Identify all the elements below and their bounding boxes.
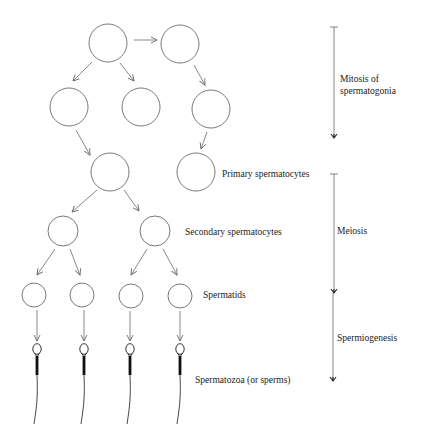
primary-spermatocyte-cell (177, 153, 215, 191)
arrow-icon (120, 63, 134, 81)
spermatid-cell (168, 284, 192, 308)
arrow-icon (73, 62, 92, 81)
spermiogenesis-phase-label: Spermiogenesis (337, 332, 397, 344)
spermatid-cell (22, 283, 46, 307)
spermatozoa-label: Spermatozoa (or sperms) (195, 374, 291, 386)
phase-timeline (330, 27, 338, 381)
sperm-icon (126, 344, 134, 424)
arrow-icon (163, 249, 177, 275)
secondary-spermatocyte-cell (140, 216, 170, 246)
arrow-icon (124, 190, 139, 211)
arrow-icon (194, 65, 205, 85)
secondary-spermatocytes-label: Secondary spermatocytes (185, 226, 282, 238)
lineage-arrows (37, 40, 207, 341)
spermatogonium-cell (50, 88, 88, 126)
spermatids-label: Spermatids (203, 289, 246, 301)
cell-lineage (22, 24, 230, 308)
spermatogenesis-diagram (0, 0, 425, 429)
arrow-icon (37, 249, 55, 275)
sperm-icon (176, 344, 184, 424)
arrow-icon (201, 132, 207, 149)
spermatid-cell (70, 283, 94, 307)
spermatogonium-cell (161, 25, 199, 63)
mitosis-phase-label-line2: spermatogonia (340, 85, 396, 97)
spermatogonium-cell (89, 24, 127, 62)
spermatid-cell (119, 284, 143, 308)
primary-spermatocyte-cell (91, 153, 129, 191)
sperm-icon (33, 344, 41, 424)
spermatogonium-cell (192, 90, 230, 128)
primary-spermatocytes-label: Primary spermatocytes (222, 168, 309, 180)
arrow-icon (70, 249, 80, 275)
spermatogonium-cell (122, 88, 160, 126)
arrow-icon (72, 190, 97, 212)
sperm-icon (80, 344, 88, 424)
arrow-icon (76, 130, 90, 155)
meiosis-phase-label: Meiosis (337, 225, 367, 237)
mitosis-phase-label-line1: Mitosis of (340, 73, 379, 85)
arrow-icon (131, 249, 147, 275)
spermatozoa (33, 344, 184, 424)
secondary-spermatocyte-cell (48, 216, 78, 246)
